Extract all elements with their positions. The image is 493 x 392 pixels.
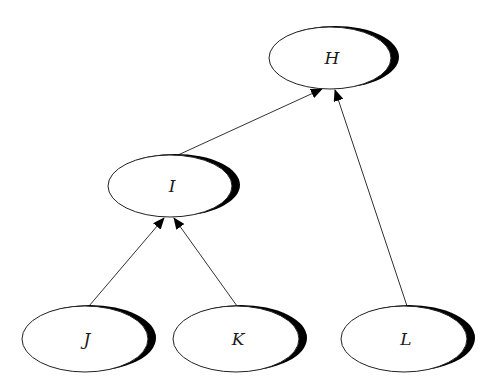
node-h[interactable]: H [269, 26, 399, 89]
node-j[interactable]: J [22, 305, 156, 372]
node-l-label: L [399, 329, 411, 349]
edge-l-to-h [335, 90, 407, 306]
node-k-label: K [231, 329, 246, 349]
edge-k-to-i [174, 218, 237, 306]
edge-i-to-h [178, 89, 322, 155]
tree-diagram: H I J K L [0, 0, 493, 392]
node-h-label: H [324, 48, 341, 68]
node-i-label: I [168, 176, 176, 196]
node-i[interactable]: I [108, 154, 240, 217]
node-l[interactable]: L [341, 305, 475, 372]
edge-j-to-i [89, 218, 164, 306]
node-k[interactable]: K [173, 305, 307, 372]
nodes: H I J K L [22, 26, 475, 372]
